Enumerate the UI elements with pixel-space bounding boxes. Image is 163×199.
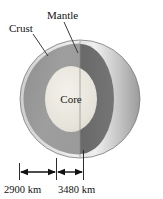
mantle-label: Mantle: [47, 9, 78, 21]
dim-arrow-mantle: [20, 169, 56, 176]
dim-label-core: 3480 km: [58, 184, 95, 195]
dim-arrow-core: [57, 169, 83, 176]
earth-cutaway-svg: Crust Mantle Core 2900 km 3480 km: [0, 0, 163, 199]
earth-interior-figure: Crust Mantle Core 2900 km 3480 km: [0, 0, 163, 199]
core-label: Core: [60, 93, 82, 105]
crust-label: Crust: [9, 22, 33, 34]
dim-label-mantle: 2900 km: [4, 184, 41, 195]
crust-leader-line: [33, 34, 48, 56]
